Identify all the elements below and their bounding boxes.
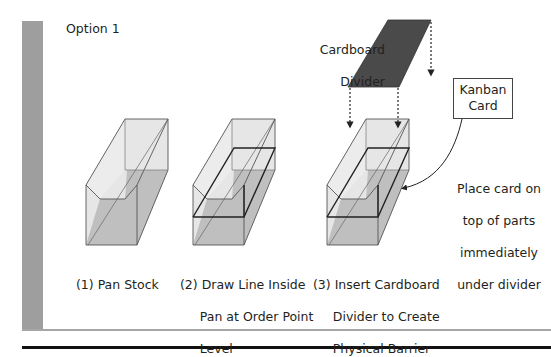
divider-label: Cardboard Divider	[305, 26, 385, 90]
step-2-line-1: (2) Draw Line Inside	[180, 277, 306, 292]
step-2-caption: (2) Draw Line Inside Pan at Order Point …	[172, 261, 313, 357]
step-3-line-3: Physical Barrier	[313, 341, 430, 356]
kanban-card-line-1: Kanban	[454, 82, 512, 98]
pan-order-line-illustration	[193, 119, 275, 245]
placement-note-line-3: immediately	[460, 245, 538, 260]
placement-note: Place card on top of parts immediately u…	[440, 165, 550, 293]
placement-note-line-2: top of parts	[463, 213, 536, 228]
kanban-card: Kanban Card	[453, 78, 513, 119]
placement-note-line-1: Place card on	[457, 181, 541, 196]
step-3-caption: (3) Insert Cardboard Divider to Create P…	[305, 261, 440, 357]
step-3-line-1: (3) Insert Cardboard	[313, 277, 440, 292]
pan-with-divider-illustration	[327, 119, 409, 245]
pan-stock-illustration	[86, 119, 168, 245]
step-2-line-3: Level	[180, 341, 233, 356]
divider-label-line-2: Divider	[340, 74, 385, 89]
kanban-card-line-2: Card	[454, 98, 512, 114]
step-1-line-1: (1) Pan Stock	[76, 277, 159, 292]
step-2-line-2: Pan at Order Point	[180, 309, 313, 324]
divider-label-line-1: Cardboard	[320, 42, 385, 57]
placement-note-line-4: under divider	[457, 277, 541, 292]
step-1-caption: (1) Pan Stock	[68, 261, 159, 293]
step-3-line-2: Divider to Create	[313, 309, 440, 324]
